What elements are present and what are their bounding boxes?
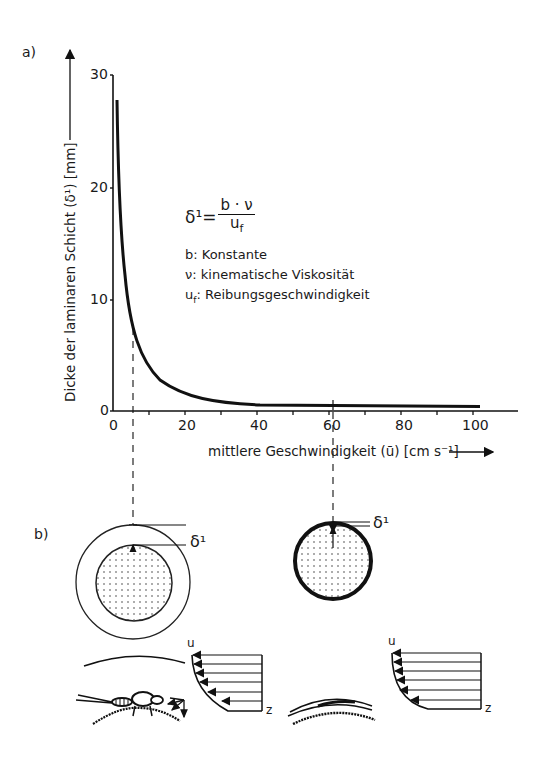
formula-numerator: b · ν: [218, 197, 254, 215]
y-tick-0: 0: [100, 402, 109, 418]
x-tick-0: 0: [109, 417, 118, 433]
insect-sheltered-illustration: [288, 699, 375, 724]
y-tick-10: 10: [90, 291, 108, 307]
velocity-profile-left: [192, 655, 262, 711]
legend-friction-velocity: uf: Reibungsgeschwindigkeit: [185, 287, 370, 305]
x-axis-label: mittlere Geschwindigkeit (ū) [cm s⁻¹]: [208, 443, 459, 459]
x-tick-80: 80: [395, 417, 413, 433]
formula-lhs: δ¹=: [185, 207, 216, 227]
chart-canvas: [0, 0, 540, 758]
organism-thick-layer: [76, 525, 190, 639]
x-tick-20: 20: [178, 417, 196, 433]
y-tick-20: 20: [90, 179, 108, 195]
profile-left-u-label: u: [187, 636, 195, 650]
formula-fraction: b · ν uf: [218, 197, 254, 237]
profile-left-z-label: z: [266, 703, 272, 717]
y-axis-label: Dicke der laminaren Schicht (δ¹) [mm]: [62, 142, 78, 402]
organism-thin-layer: [295, 522, 371, 599]
velocity-profile-right: [392, 653, 481, 709]
x-tick-60: 60: [323, 417, 341, 433]
profile-right-u-label: u: [388, 634, 396, 648]
delta-label-left: δ¹: [190, 532, 206, 551]
profile-right-z-label: z: [485, 701, 491, 715]
x-tick-40: 40: [250, 417, 268, 433]
x-tick-100: 100: [462, 417, 489, 433]
thickness-curve: [117, 100, 480, 407]
legend-constant: b: Konstante: [185, 247, 267, 262]
y-tick-30: 30: [90, 66, 108, 82]
formula: δ¹= b · ν uf: [185, 197, 255, 237]
delta-label-right: δ¹: [373, 513, 389, 532]
insect-exposed-illustration: [76, 656, 185, 724]
formula-denominator: uf: [230, 215, 243, 237]
legend-viscosity: ν: kinematische Viskosität: [185, 267, 354, 282]
